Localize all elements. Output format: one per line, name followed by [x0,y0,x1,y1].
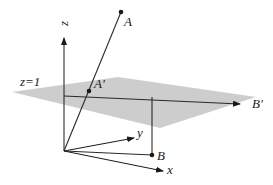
point-a [119,10,124,15]
y-axis [64,138,134,151]
label-plane-z1: z=1 [19,74,40,89]
point-b [150,153,155,158]
label-a-prime: A' [93,76,105,91]
x-axis [64,151,163,171]
projection-diagram: A A' B B' x y z z=1 [0,0,273,185]
plane-z1 [12,77,256,128]
label-y-axis: y [135,125,143,140]
segment-origin-to-b [64,151,152,155]
label-x-axis: x [166,162,173,177]
point-a-prime [87,89,92,94]
label-b: B [157,148,165,163]
label-z-axis: z [56,21,71,27]
label-b-prime: B' [252,96,263,111]
label-a: A [123,14,132,29]
